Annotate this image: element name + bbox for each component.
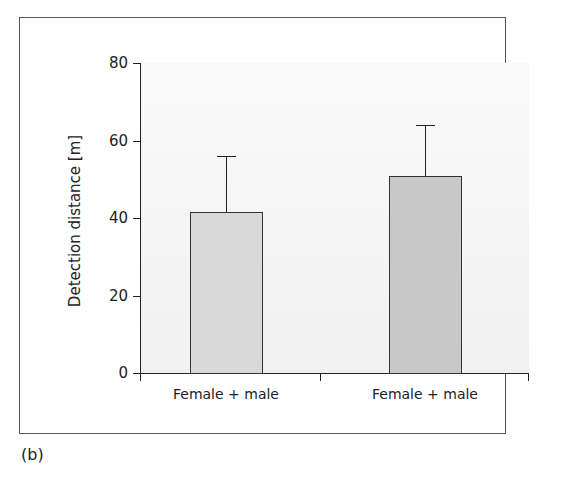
y-tick-label: 60: [88, 133, 128, 149]
error-bar: [226, 156, 227, 212]
y-tick-label: 40: [88, 210, 128, 226]
bar-1: [190, 212, 263, 374]
category-label-1: Female + male: [136, 386, 316, 402]
x-tick: [320, 373, 321, 381]
y-tick: [133, 218, 140, 219]
error-bar-cap: [416, 125, 435, 126]
error-bar: [425, 125, 426, 176]
y-axis-label: Detection distance [m]: [66, 126, 84, 316]
x-tick: [140, 373, 141, 381]
panel-label: (b): [21, 445, 44, 464]
y-tick: [133, 141, 140, 142]
y-tick: [133, 296, 140, 297]
error-bar-cap: [217, 156, 236, 157]
y-tick: [133, 63, 140, 64]
x-tick: [528, 373, 529, 381]
y-tick-label: 0: [88, 365, 128, 381]
y-tick-label: 20: [88, 288, 128, 304]
y-tick-label: 80: [88, 55, 128, 71]
y-axis: [140, 63, 141, 381]
category-label-2: Female + male: [335, 386, 515, 402]
bar-2: [389, 176, 462, 374]
y-tick: [133, 373, 140, 374]
